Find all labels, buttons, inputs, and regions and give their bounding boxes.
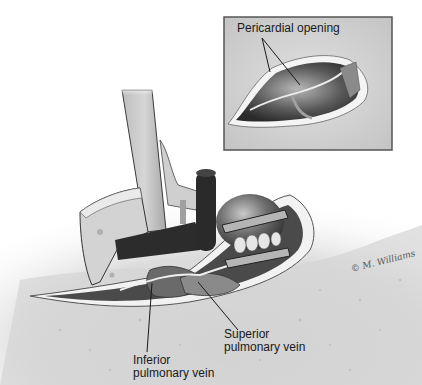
inset-panel <box>224 17 392 150</box>
surgical-illustration: Pericardial opening Superior pulmonary v… <box>0 0 422 385</box>
superior-pulmonary-vein-label: Superior pulmonary vein <box>224 328 305 354</box>
inferior-pulmonary-vein-label: Inferior pulmonary vein <box>133 354 214 380</box>
illustration-artwork <box>0 0 422 385</box>
pericardial-opening-label: Pericardial opening <box>237 22 340 35</box>
